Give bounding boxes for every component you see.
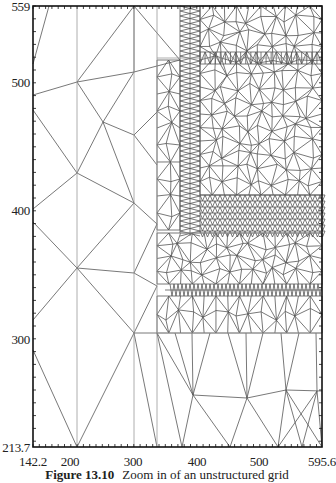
axis-ticks bbox=[33, 6, 322, 447]
caption-text: Zoom in of an unstructured grid bbox=[122, 467, 288, 482]
y-tick-label: 300 bbox=[0, 333, 30, 346]
y-tick-label: 400 bbox=[0, 204, 30, 217]
figure-caption: Figure 13.10Zoom in of an unstructured g… bbox=[0, 467, 334, 483]
y-tick-label: 559 bbox=[0, 0, 30, 13]
y-tick-label: 500 bbox=[0, 76, 30, 89]
plot-frame bbox=[33, 6, 322, 447]
caption-label: Figure 13.10 bbox=[45, 467, 114, 482]
y-tick-label: 213.7 bbox=[0, 441, 30, 454]
